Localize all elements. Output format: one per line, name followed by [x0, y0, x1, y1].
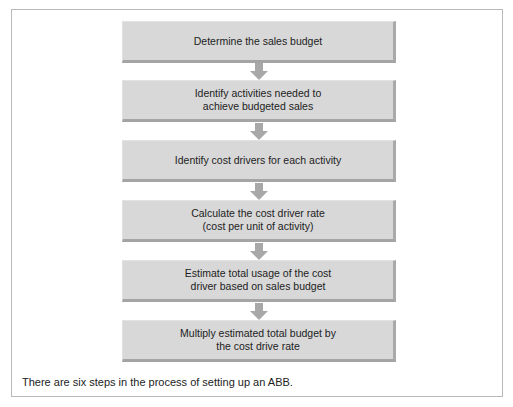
step-4-box: Calculate the cost driver rate (cost per… — [122, 200, 396, 242]
step-1-label: Determine the sales budget — [194, 35, 322, 48]
down-arrow-icon — [250, 303, 268, 320]
step-5-label: Estimate total usage of the cost driver … — [185, 267, 332, 293]
step-3-label: Identify cost drivers for each activity — [175, 154, 341, 167]
step-6-box: Multiply estimated total budget by the c… — [122, 320, 396, 362]
down-arrow-icon — [250, 63, 268, 80]
step-4-label: Calculate the cost driver rate (cost per… — [191, 207, 325, 233]
down-arrow-icon — [250, 183, 268, 200]
step-1-box: Determine the sales budget — [122, 21, 396, 63]
down-arrow-icon — [250, 243, 268, 260]
step-2-box: Identify activities needed to achieve bu… — [122, 80, 396, 122]
step-2-label: Identify activities needed to achieve bu… — [195, 87, 322, 113]
figure-caption: There are six steps in the process of se… — [22, 376, 293, 388]
step-5-box: Estimate total usage of the cost driver … — [122, 260, 396, 302]
step-6-label: Multiply estimated total budget by the c… — [180, 327, 336, 353]
down-arrow-icon — [250, 123, 268, 140]
step-3-box: Identify cost drivers for each activity — [122, 140, 396, 182]
